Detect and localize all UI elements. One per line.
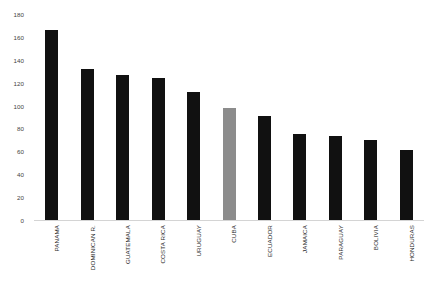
x-axis-tick-label: BOLIVIA bbox=[373, 225, 379, 250]
x-axis-tick-label: CUBA bbox=[231, 225, 237, 243]
x-axis-tick-label: ECUADOR bbox=[267, 225, 273, 257]
x-axis-tick-label: GUATEMALA bbox=[125, 225, 131, 264]
x-axis-tick-label: COSTA RICA bbox=[160, 225, 166, 264]
x-axis-tick-label: PANAMA bbox=[54, 225, 60, 252]
x-axis-baseline bbox=[34, 220, 424, 221]
bar bbox=[329, 136, 342, 221]
y-axis-tick-label: 60 bbox=[17, 149, 24, 155]
bar bbox=[45, 30, 58, 221]
bar bbox=[293, 134, 306, 221]
bar bbox=[81, 69, 94, 221]
y-axis: 020406080100120140160180 bbox=[0, 0, 34, 284]
y-axis-tick-label: 40 bbox=[17, 172, 24, 178]
x-axis-tick-label: JAMAICA bbox=[302, 225, 308, 253]
y-axis-tick-label: 20 bbox=[17, 195, 24, 201]
x-axis-tick-label: HONDURAS bbox=[409, 225, 415, 262]
bar-chart: 020406080100120140160180 PANAMADOMINICAN… bbox=[0, 0, 427, 284]
bars-layer bbox=[34, 15, 424, 221]
bar bbox=[223, 108, 236, 221]
x-axis-tick-label: DOMINICAN R. bbox=[90, 225, 96, 270]
bar bbox=[187, 92, 200, 221]
bar bbox=[258, 116, 271, 221]
y-axis-tick-label: 180 bbox=[13, 12, 24, 18]
y-axis-tick-label: 100 bbox=[13, 103, 24, 109]
y-axis-tick-label: 120 bbox=[13, 81, 24, 87]
bar bbox=[400, 150, 413, 221]
x-axis-tick-label: URUGUAY bbox=[196, 225, 202, 257]
y-axis-tick-label: 140 bbox=[13, 58, 24, 64]
y-axis-tick-label: 80 bbox=[17, 126, 24, 132]
x-axis: PANAMADOMINICAN R.GUATEMALACOSTA RICAURU… bbox=[34, 222, 424, 284]
y-axis-tick-label: 160 bbox=[13, 35, 24, 41]
y-axis-tick-label: 0 bbox=[20, 218, 24, 224]
bar bbox=[152, 78, 165, 221]
plot-area bbox=[34, 15, 424, 221]
bar bbox=[116, 75, 129, 221]
bar bbox=[364, 140, 377, 221]
x-axis-tick-label: PARAGUAY bbox=[338, 225, 344, 260]
